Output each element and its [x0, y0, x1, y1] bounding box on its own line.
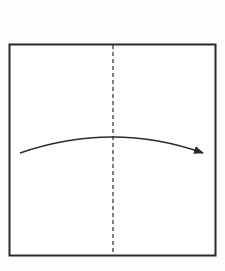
fold-diagram — [0, 0, 225, 271]
